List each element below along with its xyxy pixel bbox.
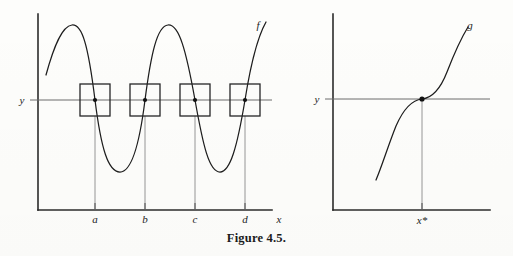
figure-canvas: f y x a b c d g y x* <box>0 0 513 231</box>
root-label-a: a <box>92 213 98 225</box>
left-x-axis-label: x <box>276 213 282 225</box>
root-label-d: d <box>242 213 248 225</box>
root-label-xstar: x* <box>416 214 428 226</box>
root-dot-xstar <box>419 96 424 101</box>
figure-caption: Figure 4.5. <box>0 231 513 246</box>
root-dot-c <box>193 98 197 102</box>
curve-f <box>46 22 266 172</box>
right-panel: g y x* <box>314 14 490 226</box>
root-dot-d <box>243 98 247 102</box>
figure-4-5: f y x a b c d g y x* Figure 4.5. <box>0 0 513 256</box>
root-label-b: b <box>142 213 148 225</box>
left-panel: f y x a b c d <box>19 14 282 225</box>
root-dot-a <box>93 98 97 102</box>
root-dot-b <box>143 98 147 102</box>
left-y-axis-label: y <box>19 94 25 106</box>
curve-label-f: f <box>256 19 261 31</box>
curve-label-g: g <box>467 19 473 31</box>
right-y-axis-label: y <box>314 93 320 105</box>
root-label-c: c <box>193 213 198 225</box>
